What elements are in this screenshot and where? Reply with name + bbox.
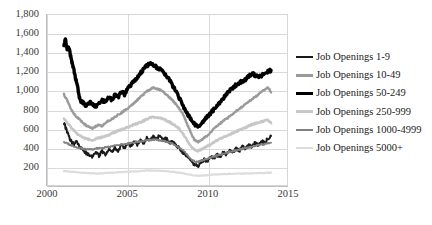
- x-axis: 2000200520102015: [0, 188, 300, 208]
- legend: Job Openings 1-9Job Openings 10-49Job Op…: [296, 48, 432, 157]
- x-axis-tick-label: 2000: [17, 188, 77, 199]
- series-line: [64, 170, 271, 176]
- legend-item[interactable]: Job Openings 1000-4999: [296, 121, 432, 139]
- y-axis-tick-label: 1,600: [0, 28, 39, 38]
- series-layer: [48, 15, 287, 185]
- y-axis-tick-label: 1,800: [0, 9, 39, 19]
- legend-item[interactable]: Job Openings 5000+: [296, 139, 432, 157]
- plot-area: [47, 14, 288, 186]
- legend-item[interactable]: Job Openings 50-249: [296, 84, 432, 102]
- legend-item-label: Job Openings 1-9: [316, 51, 390, 63]
- legend-swatch-icon: [296, 74, 313, 77]
- legend-swatch-icon: [296, 147, 313, 149]
- legend-item[interactable]: Job Openings 250-999: [296, 103, 432, 121]
- y-axis-tick-label: 600: [0, 124, 39, 134]
- legend-swatch-icon: [296, 92, 313, 95]
- legend-item-label: Job Openings 10-49: [316, 69, 401, 81]
- x-axis-tick-label: 2015: [258, 188, 318, 199]
- legend-swatch-icon: [296, 110, 313, 113]
- y-axis-tick-label: 400: [0, 143, 39, 153]
- y-axis-tick-label: 1,400: [0, 47, 39, 57]
- x-axis-line: [47, 186, 288, 187]
- legend-swatch-icon: [296, 129, 313, 131]
- legend-item-label: Job Openings 5000+: [316, 142, 403, 154]
- legend-item-label: Job Openings 50-249: [316, 87, 406, 99]
- legend-item[interactable]: Job Openings 10-49: [296, 66, 432, 84]
- y-axis-tick-label: 1,200: [0, 66, 39, 76]
- series-line: [64, 87, 271, 142]
- y-axis: 1,8001,6001,4001,2001,000800600400200-: [0, 0, 45, 200]
- series-line: [64, 117, 271, 152]
- x-axis-tick-label: 2005: [97, 188, 157, 199]
- chart-container: 1,8001,6001,4001,2001,000800600400200- 2…: [0, 0, 432, 225]
- x-axis-tick-label: 2010: [178, 188, 238, 199]
- y-axis-tick-label: 800: [0, 105, 39, 115]
- series-line: [64, 39, 271, 127]
- y-axis-tick-label: 1,000: [0, 85, 39, 95]
- legend-item-label: Job Openings 250-999: [316, 106, 411, 118]
- legend-swatch-icon: [296, 56, 313, 59]
- legend-item-label: Job Openings 1000-4999: [316, 124, 422, 136]
- y-axis-tick-label: 200: [0, 162, 39, 172]
- legend-item[interactable]: Job Openings 1-9: [296, 48, 432, 66]
